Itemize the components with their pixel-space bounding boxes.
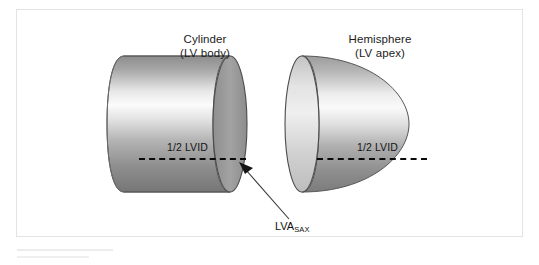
lvasax-annotation-label: LVASAX [275,220,310,232]
hemisphere-flat-face [285,56,319,192]
caption-rules [17,249,113,263]
caption-rule-2 [17,256,89,258]
hemisphere-dimension-label: 1/2 LVID [357,141,398,153]
lvasax-subscript-text: SAX [294,225,310,234]
caption-rule-1 [17,249,113,251]
hemisphere-label: Hemisphere (LV apex) [305,32,455,60]
arrow-shaft [246,170,289,219]
cylinder-subtitle: (LV body) [136,46,274,60]
lvasax-arrow [239,162,289,219]
cylinder-front-face [213,56,247,192]
hemisphere-shape [285,56,409,192]
hemisphere-title: Hemisphere [305,32,455,46]
cylinder-label: Cylinder (LV body) [136,32,274,60]
cylinder-body [107,56,230,192]
cylinder-midline-dashed [139,158,246,160]
hemisphere-midline-dashed [317,158,427,160]
cylinder-dimension-label: 1/2 LVID [167,141,208,153]
lvasax-main-text: LVA [275,220,294,232]
hemisphere-subtitle: (LV apex) [305,46,455,60]
cylinder-shape [107,56,247,192]
cylinder-title: Cylinder [136,32,274,46]
figure-panel: Cylinder (LV body) Hemisphere (LV apex) … [16,9,523,237]
